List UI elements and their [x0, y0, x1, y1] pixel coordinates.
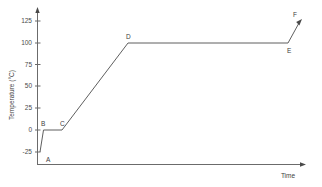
point-label-d: D: [126, 33, 131, 40]
point-label-b: B: [41, 120, 45, 127]
heating-curve-line: [40, 23, 299, 152]
point-label-c: C: [60, 120, 65, 127]
y-tick-label-75: 75: [25, 61, 33, 68]
x-axis-arrow-icon: [300, 162, 306, 166]
heating-curve-chart: 125 100 75 50 25 0 -25 Temperature (°C) …: [0, 0, 322, 187]
y-tick-label-0: 0: [28, 126, 32, 133]
y-tick-label-25: 25: [25, 104, 33, 111]
y-tick-label-100: 100: [21, 39, 32, 46]
curve-end-arrow-icon: [296, 19, 302, 26]
y-axis-title: Temperature (°C): [8, 70, 16, 120]
x-axis-title: Time: [281, 172, 296, 179]
y-tick-label-125: 125: [21, 17, 32, 24]
chart-canvas: 125 100 75 50 25 0 -25 Temperature (°C) …: [0, 0, 322, 187]
point-label-a: A: [46, 156, 51, 163]
point-label-e: E: [287, 47, 292, 54]
y-tick-label-neg25: -25: [23, 148, 33, 155]
y-tick-label-50: 50: [25, 82, 33, 89]
point-label-f: F: [293, 11, 297, 18]
y-axis-arrow-icon: [35, 7, 39, 13]
